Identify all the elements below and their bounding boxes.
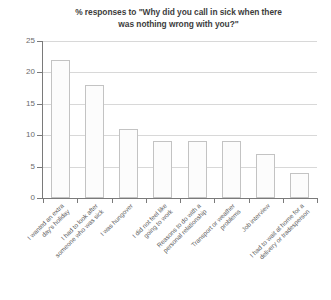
bar-chart: % responses to "Why did you call in sick… xyxy=(0,0,331,300)
y-axis-tick-label: 15 xyxy=(5,99,35,108)
bar[interactable] xyxy=(256,154,275,198)
y-axis-tick-label: 25 xyxy=(5,36,35,45)
bar[interactable] xyxy=(153,141,172,198)
bar[interactable] xyxy=(119,129,138,198)
bar[interactable] xyxy=(222,141,241,198)
chart-title-line-2: was nothing wrong with you?" xyxy=(36,19,321,31)
bar[interactable] xyxy=(51,60,70,198)
chart-title: % responses to "Why did you call in sick… xyxy=(36,7,321,30)
bar[interactable] xyxy=(290,173,309,198)
y-axis-tick-label: 10 xyxy=(5,130,35,139)
y-axis-tick-label: 20 xyxy=(5,67,35,76)
bar[interactable] xyxy=(188,141,207,198)
y-axis-tick-label: 5 xyxy=(5,162,35,171)
x-axis-labels: I wanted an extra day's holidayI had to … xyxy=(0,198,331,300)
plot-area xyxy=(43,41,317,198)
bar[interactable] xyxy=(85,85,104,198)
chart-title-line-1: % responses to "Why did you call in sick… xyxy=(36,7,321,19)
